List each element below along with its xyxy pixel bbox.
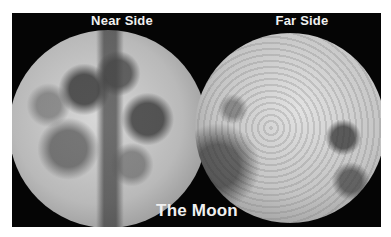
- far-side-label: Far Side: [252, 13, 352, 28]
- near-side-moon-image: [12, 30, 207, 227]
- near-side-label: Near Side: [72, 13, 172, 28]
- far-side-moon-image: [195, 33, 381, 223]
- moon-comparison-panel: Near Side Far Side The Moon: [12, 13, 381, 227]
- image-title: The Moon: [142, 201, 252, 221]
